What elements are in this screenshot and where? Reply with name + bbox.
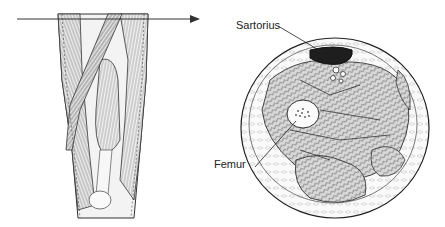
sartorius-label: Sartorius xyxy=(236,19,280,31)
thigh-cross-section xyxy=(241,26,429,218)
thigh-anterior-view xyxy=(58,14,148,218)
anatomy-illustration xyxy=(0,0,445,227)
femur-label: Femur xyxy=(214,158,246,170)
